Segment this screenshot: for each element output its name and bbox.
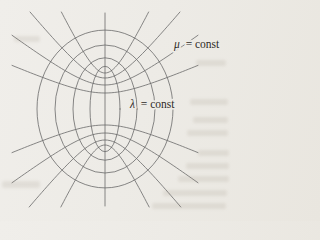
- lambda-symbol: λ: [129, 98, 135, 110]
- lambda-const-label: λ = const: [129, 98, 175, 110]
- scanned-textbook-figure: { "page": { "background_color": "#edebe6…: [0, 0, 231, 221]
- mu-symbol: μ: [173, 38, 180, 51]
- elliptic-coordinates-diagram: μ = const λ = const: [0, 0, 231, 221]
- mu-equals-const-text: = const: [186, 38, 220, 50]
- lambda-equals-const-text: = const: [141, 98, 175, 110]
- mu-const-label: μ = const: [173, 38, 220, 51]
